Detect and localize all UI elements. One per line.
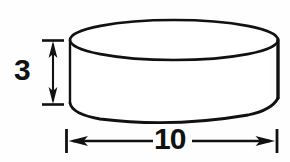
diameter-dimension-label: 10	[154, 124, 185, 154]
height-dimension-label: 3	[14, 55, 31, 85]
cylinder-figure: 3 10	[0, 0, 290, 162]
figure-canvas	[0, 0, 290, 162]
height-dimension	[42, 41, 64, 105]
cylinder-shape	[70, 20, 278, 123]
